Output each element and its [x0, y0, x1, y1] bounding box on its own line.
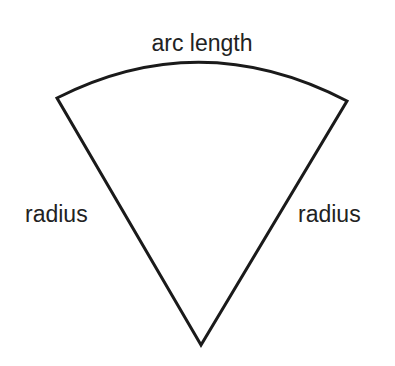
- arc-length-label: arc length: [151, 30, 252, 56]
- right-radius-label: radius: [298, 201, 361, 227]
- sector-diagram: arc length radius radius: [0, 0, 395, 366]
- left-radius-label: radius: [25, 201, 88, 227]
